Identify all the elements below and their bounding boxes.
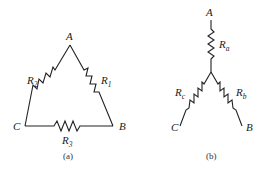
r3-label: R3	[61, 134, 73, 149]
caption-b: (b)	[206, 151, 217, 161]
resistor-rb	[211, 72, 242, 126]
delta-network: A C B R2 R1 R3 (a)	[13, 30, 126, 161]
rc-label: Rc	[174, 86, 186, 101]
r2-label: R2	[26, 74, 38, 89]
r1-label: R1	[100, 74, 111, 89]
caption-a: (a)	[63, 151, 73, 161]
node-a-label: A	[65, 30, 73, 42]
resistor-ra	[208, 20, 214, 72]
rb-label: Rb	[235, 86, 247, 101]
node-b-label-b: B	[246, 121, 253, 133]
node-a-label-b: A	[205, 6, 213, 18]
node-c-label: C	[13, 120, 21, 132]
node-b-label: B	[119, 120, 126, 132]
circuit-diagrams: A C B R2 R1 R3 (a) A C B Ra Rc Rb (b)	[0, 0, 265, 172]
resistor-r3	[25, 121, 113, 131]
ra-label: Ra	[218, 38, 230, 53]
wye-network: A C B Ra Rc Rb (b)	[171, 6, 253, 161]
node-c-label-b: C	[171, 121, 179, 133]
